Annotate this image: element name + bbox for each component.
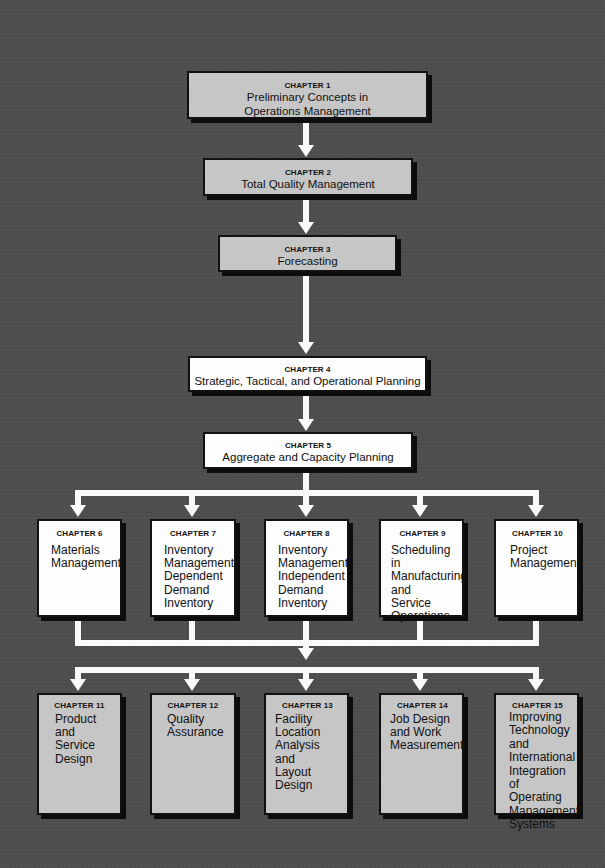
arrow-head-to-10 xyxy=(528,505,544,517)
chapter-6-box: CHAPTER 6 Materials Management xyxy=(37,519,122,617)
arrow-head-1-2 xyxy=(298,145,314,157)
chapter-label: CHAPTER 9 xyxy=(385,529,460,539)
chapter-label: CHAPTER 11 xyxy=(43,701,116,711)
arrow-head-to-8 xyxy=(298,505,314,517)
chapter-label: CHAPTER 6 xyxy=(45,529,114,539)
arrow-head-to-14 xyxy=(412,679,428,691)
chapter-title: Forecasting xyxy=(220,255,395,269)
chapter-title: Scheduling in Manufacturing and Service … xyxy=(391,544,460,623)
chapter-title: Facility Location Analysis and Layout De… xyxy=(275,713,345,792)
chapter-2-box: CHAPTER 2 Total Quality Management xyxy=(203,158,413,196)
chapter-3-box: CHAPTER 3 Forecasting xyxy=(218,235,397,272)
arrow-head-3-4 xyxy=(298,342,314,354)
chapter-title: Preliminary Concepts in Operations Manag… xyxy=(189,91,426,118)
chapter-label: CHAPTER 7 xyxy=(156,529,230,539)
chapter-1-box: CHAPTER 1 Preliminary Concepts in Operat… xyxy=(187,71,428,119)
arrow-head-collector xyxy=(298,648,314,660)
chapter-label: CHAPTER 4 xyxy=(190,365,425,375)
chapter-label: CHAPTER 10 xyxy=(500,529,575,539)
chapter-title: Total Quality Management xyxy=(205,178,411,192)
chapter-7-box: CHAPTER 7 Inventory Management: Dependen… xyxy=(150,519,236,617)
arrow-head-to-11 xyxy=(70,679,86,691)
chapter-title: Project Management xyxy=(510,544,575,570)
arrow-shaft-2-3 xyxy=(303,198,309,223)
arrow-head-to-13 xyxy=(298,679,314,691)
arrow-head-to-15 xyxy=(528,679,544,691)
arrow-shaft-3-4 xyxy=(303,274,309,343)
chapter-12-box: CHAPTER 12 Quality Assurance xyxy=(150,693,236,815)
arrow-head-4-5 xyxy=(298,419,314,431)
chapter-title: Improving Technology and International I… xyxy=(509,711,575,832)
chapter-title: Inventory Management: Independent Demand… xyxy=(278,544,343,610)
chapter-label: CHAPTER 1 xyxy=(189,81,426,91)
chapter-title: Strategic, Tactical, and Operational Pla… xyxy=(190,375,425,389)
chapter-label: CHAPTER 13 xyxy=(270,701,345,711)
chapter-8-box: CHAPTER 8 Inventory Management: Independ… xyxy=(264,519,349,617)
chapter-title: Materials Management xyxy=(51,544,114,570)
chapter-title: Quality Assurance xyxy=(167,713,230,739)
chapter-15-box: CHAPTER 15 Improving Technology and Inte… xyxy=(494,693,579,815)
arrow-head-to-7 xyxy=(184,505,200,517)
chapter-5-box: CHAPTER 5 Aggregate and Capacity Plannin… xyxy=(203,432,413,469)
chapter-label: CHAPTER 3 xyxy=(220,245,395,255)
chapter-label: CHAPTER 2 xyxy=(205,168,411,178)
arrow-head-to-6 xyxy=(70,505,86,517)
chapter-label: CHAPTER 8 xyxy=(270,529,343,539)
chapter-label: CHAPTER 12 xyxy=(156,701,230,711)
chapter-label: CHAPTER 5 xyxy=(205,441,411,451)
chapter-label: CHAPTER 14 xyxy=(385,701,460,711)
chapter-13-box: CHAPTER 13 Facility Location Analysis an… xyxy=(264,693,349,815)
arrow-shaft-4-5 xyxy=(303,394,309,420)
arrow-head-2-3 xyxy=(298,222,314,234)
chapter-title: Product and Service Design xyxy=(55,713,116,766)
chapter-4-box: CHAPTER 4 Strategic, Tactical, and Opera… xyxy=(188,356,427,392)
chapter-title: Aggregate and Capacity Planning xyxy=(205,451,411,465)
arrow-shaft-1-2 xyxy=(303,121,309,146)
chapter-14-box: CHAPTER 14 Job Design and Work Measureme… xyxy=(379,693,464,815)
arrow-head-to-9 xyxy=(412,505,428,517)
chapter-title: Inventory Management: Dependent Demand I… xyxy=(164,544,230,610)
chapter-11-box: CHAPTER 11 Product and Service Design xyxy=(37,693,122,815)
arrow-head-to-12 xyxy=(184,679,200,691)
chapter-10-box: CHAPTER 10 Project Management xyxy=(494,519,579,617)
chapter-9-box: CHAPTER 9 Scheduling in Manufacturing an… xyxy=(379,519,464,617)
chapter-title: Job Design and Work Measurement xyxy=(390,713,460,753)
